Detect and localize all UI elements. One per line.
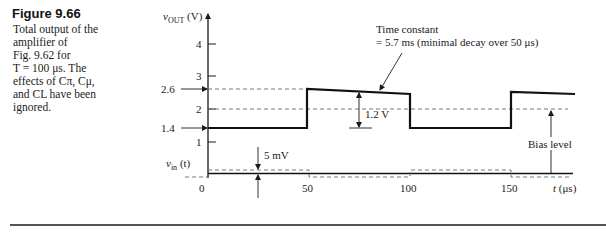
y-axis-label: vOUT (V) — [163, 10, 203, 25]
time-constant-line1: Time constant — [376, 23, 438, 35]
bottom-rule — [10, 224, 606, 226]
x-tick-100: 100 — [400, 182, 417, 194]
amp-out-label: 1.2 V — [365, 108, 389, 120]
y-tick-4: 4 — [196, 38, 202, 50]
time-constant-arrow — [380, 53, 402, 90]
level-1-4-label: 1.4 — [161, 122, 175, 134]
x-tick-150: 150 — [501, 182, 518, 194]
amp-in-label: 5 mV — [264, 149, 289, 161]
vout-waveform — [208, 89, 575, 128]
y-tick-3: 3 — [196, 70, 202, 82]
vin-label: vin (t) — [166, 157, 191, 172]
bias-level-label: Bias level — [528, 138, 572, 150]
time-constant-line2: = 5.7 ms (minimal decay over 50 μs) — [376, 36, 539, 49]
x-tick-50: 50 — [302, 182, 314, 194]
x-axis-label: t (μs) — [553, 182, 577, 195]
level-2-6-label: 2.6 — [161, 83, 175, 95]
y-tick-1: 1 — [196, 136, 202, 148]
y-axis — [208, 14, 216, 178]
x-tick-0: 0 — [199, 182, 205, 194]
waveform-chart: vOUT (V) 4 3 2 1 0 2.6 1.4 vin (t) 50 10… — [0, 0, 606, 236]
y-tick-2: 2 — [196, 103, 202, 115]
